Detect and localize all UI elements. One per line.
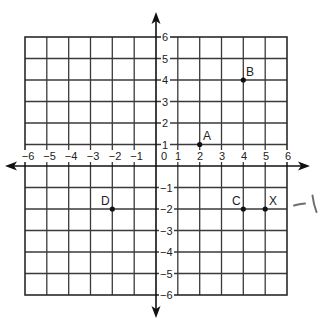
x-tick-label: 6 <box>285 150 291 162</box>
x-tick-label: −6 <box>22 150 35 162</box>
y-tick-label: −4 <box>160 246 173 258</box>
coordinate-plane: −6 −5 −4 −3 −2 −1 0 1 2 3 4 5 6 −6 −5 −4… <box>0 0 324 319</box>
point-label: C <box>232 194 241 208</box>
point-label: A <box>203 129 211 143</box>
x-tick-label: 2 <box>197 150 203 162</box>
x-tick-label: −4 <box>65 150 78 162</box>
y-tick-label: 2 <box>162 117 168 129</box>
y-tick-label: 6 <box>162 31 168 43</box>
y-tick-label: −5 <box>160 268 173 280</box>
y-tick-label: 5 <box>162 53 168 65</box>
origin-label: 0 <box>161 150 167 162</box>
point-label: X <box>269 194 277 208</box>
y-tick-label: −1 <box>160 182 173 194</box>
handwritten-annotation <box>294 196 317 213</box>
x-tick-label: 3 <box>219 150 225 162</box>
point-label: B <box>246 65 254 79</box>
coordinate-plane-figure: −6 −5 −4 −3 −2 −1 0 1 2 3 4 5 6 −6 −5 −4… <box>0 0 324 319</box>
point-label: D <box>101 194 110 208</box>
x-tick-label: 4 <box>241 150 247 162</box>
y-tick-label: −2 <box>160 203 173 215</box>
y-tick-label: −3 <box>160 225 173 237</box>
x-tick-label: −1 <box>130 150 143 162</box>
y-tick-label: 4 <box>162 74 168 86</box>
x-tick-label: −3 <box>87 150 100 162</box>
x-tick-label: −5 <box>43 150 56 162</box>
y-tick-label: −6 <box>160 289 173 301</box>
y-tick-label: 3 <box>162 96 168 108</box>
x-tick-label: 5 <box>263 150 269 162</box>
x-tick-label: 1 <box>175 150 181 162</box>
x-tick-label: −2 <box>109 150 122 162</box>
x-axis <box>5 162 310 171</box>
y-tick-label: 1 <box>162 139 168 151</box>
